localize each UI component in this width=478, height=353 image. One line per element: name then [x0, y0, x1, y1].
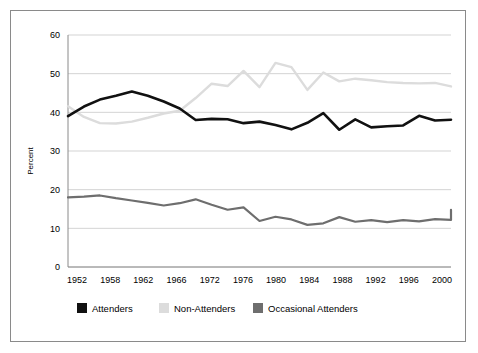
x-tick-label: 2000	[432, 275, 452, 285]
x-tick-label: 1972	[200, 275, 220, 285]
x-tick-label: 1976	[233, 275, 253, 285]
data-series	[68, 63, 451, 225]
y-tick-labels: 0102030405060	[50, 30, 60, 272]
legend-label-0: Attenders	[92, 303, 133, 314]
line-chart: 0102030405060 19521958196219661972197619…	[11, 11, 467, 343]
false	[253, 303, 263, 313]
y-tick-label: 60	[50, 30, 60, 40]
x-tick-label: 1966	[167, 275, 187, 285]
x-tick-label: 1996	[399, 275, 419, 285]
chart-legend: AttendersNon-AttendersOccasional Attende…	[77, 303, 358, 314]
x-tick-label: 1962	[133, 275, 153, 285]
x-tick-label: 1988	[332, 275, 352, 285]
x-tick-label: 1952	[67, 275, 87, 285]
x-tick-label: 1984	[299, 275, 319, 285]
y-axis-title: Percent	[26, 146, 35, 174]
false	[159, 303, 169, 313]
x-tick-labels: 1952195819621966197219761980198419881992…	[67, 275, 452, 285]
x-tick-label: 1958	[100, 275, 120, 285]
chart-figure: 0102030405060 19521958196219661972197619…	[10, 10, 466, 342]
x-tick-label: 1980	[266, 275, 286, 285]
legend-label-2: Occasional Attenders	[268, 303, 358, 314]
y-tick-label: 30	[50, 146, 60, 156]
series-line-occasional-attenders	[68, 195, 451, 224]
x-tick-label: 1992	[366, 275, 386, 285]
y-tick-label: 50	[50, 69, 60, 79]
gridlines	[68, 35, 451, 267]
series-line-attenders	[68, 91, 451, 129]
y-tick-label: 10	[50, 224, 60, 234]
y-tick-label: 40	[50, 108, 60, 118]
false	[77, 303, 87, 313]
y-tick-label: 0	[55, 262, 60, 272]
legend-label-1: Non-Attenders	[174, 303, 236, 314]
y-tick-label: 20	[50, 185, 60, 195]
chart-svg: 0102030405060 19521958196219661972197619…	[11, 11, 467, 343]
